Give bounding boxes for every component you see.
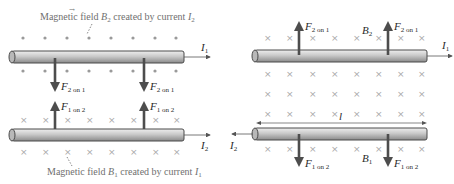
svg-text:×: × xyxy=(375,89,383,99)
svg-text:×: × xyxy=(309,33,317,43)
svg-text:×: × xyxy=(353,69,361,79)
wire-2 xyxy=(9,129,210,141)
force-label-1on2-right-a: F1 on 2 xyxy=(304,157,330,171)
right-panel: ×××××××× ×××××××× ×××××××× ×××××××× ××××… xyxy=(229,20,452,171)
svg-text:×: × xyxy=(130,115,138,125)
svg-text:×: × xyxy=(264,144,272,154)
force-label-2on1-a: F2 on 1 xyxy=(60,80,86,94)
wire-2-right xyxy=(232,128,427,140)
svg-text:×: × xyxy=(264,69,272,79)
svg-text:×: × xyxy=(264,89,272,99)
svg-text:×: × xyxy=(353,89,361,99)
svg-text:×: × xyxy=(108,147,116,157)
svg-text:×: × xyxy=(418,69,426,79)
svg-text:×: × xyxy=(20,147,28,157)
svg-text:×: × xyxy=(397,89,405,99)
svg-text:×: × xyxy=(418,144,426,154)
field-label-b2: B2 xyxy=(362,24,373,38)
svg-text:×: × xyxy=(331,144,339,154)
svg-text:×: × xyxy=(286,109,294,119)
svg-text:×: × xyxy=(264,109,272,119)
svg-text:×: × xyxy=(397,109,405,119)
svg-text:×: × xyxy=(173,115,181,125)
svg-text:×: × xyxy=(42,115,50,125)
svg-text:×: × xyxy=(353,109,361,119)
caption-leader-bottom xyxy=(67,157,72,166)
svg-text:×: × xyxy=(42,147,50,157)
current-label-i1-right: I1 xyxy=(441,39,450,53)
field-label-b1: B1 xyxy=(362,152,373,166)
current-label-i2-right: I2 xyxy=(229,139,238,153)
svg-text:×: × xyxy=(264,33,272,43)
svg-text:×: × xyxy=(286,33,294,43)
caption-leader xyxy=(87,24,92,34)
force-label-2on1-b: F2 on 1 xyxy=(149,80,175,94)
svg-text:×: × xyxy=(375,33,383,43)
svg-text:×: × xyxy=(86,147,94,157)
svg-text:×: × xyxy=(286,144,294,154)
svg-text:×: × xyxy=(152,115,160,125)
force-label-1on2-a: F1 on 2 xyxy=(60,100,86,114)
svg-text:×: × xyxy=(20,115,28,125)
parallel-currents-diagram: Magnetic field B2 created by current I2 … xyxy=(0,0,454,184)
svg-text:×: × xyxy=(418,33,426,43)
svg-text:×: × xyxy=(397,69,405,79)
length-label: l xyxy=(339,110,342,122)
svg-text:×: × xyxy=(418,109,426,119)
svg-text:×: × xyxy=(331,109,339,119)
svg-text:×: × xyxy=(397,144,405,154)
svg-text:×: × xyxy=(331,89,339,99)
svg-text:×: × xyxy=(152,147,160,157)
force-label-1on2-b: F1 on 2 xyxy=(149,100,175,114)
current-label-i1: I1 xyxy=(200,41,209,55)
vector-hat: → xyxy=(69,6,75,14)
svg-text:×: × xyxy=(353,33,361,43)
svg-text:×: × xyxy=(375,144,383,154)
wire-1-right xyxy=(252,50,452,62)
svg-text:×: × xyxy=(286,89,294,99)
wire-1 xyxy=(9,51,210,63)
left-panel: Magnetic field B2 created by current I2 … xyxy=(9,6,210,179)
svg-text:×: × xyxy=(331,33,339,43)
svg-text:×: × xyxy=(309,89,317,99)
force-label-1on2-right-b: F1 on 2 xyxy=(393,157,419,171)
svg-text:×: × xyxy=(108,115,116,125)
top-field-caption: Magnetic field B2 created by current I2 xyxy=(40,11,195,24)
svg-text:×: × xyxy=(418,89,426,99)
svg-text:×: × xyxy=(309,109,317,119)
svg-text:×: × xyxy=(173,147,181,157)
svg-text:×: × xyxy=(86,115,94,125)
svg-text:×: × xyxy=(309,69,317,79)
svg-text:×: × xyxy=(353,144,361,154)
svg-text:×: × xyxy=(130,147,138,157)
svg-text:×: × xyxy=(309,144,317,154)
svg-text:×: × xyxy=(375,109,383,119)
current-label-i2: I2 xyxy=(200,139,209,153)
force-label-2on1-right-b: F2 on 1 xyxy=(393,20,419,34)
svg-text:×: × xyxy=(397,33,405,43)
force-label-2on1-right-a: F2 on 1 xyxy=(304,20,330,34)
bottom-field-caption: Magnetic field B1 created by current I1 xyxy=(47,166,202,179)
svg-text:×: × xyxy=(64,147,72,157)
svg-text:×: × xyxy=(331,69,339,79)
svg-text:×: × xyxy=(64,115,72,125)
svg-text:×: × xyxy=(375,69,383,79)
svg-text:×: × xyxy=(286,69,294,79)
